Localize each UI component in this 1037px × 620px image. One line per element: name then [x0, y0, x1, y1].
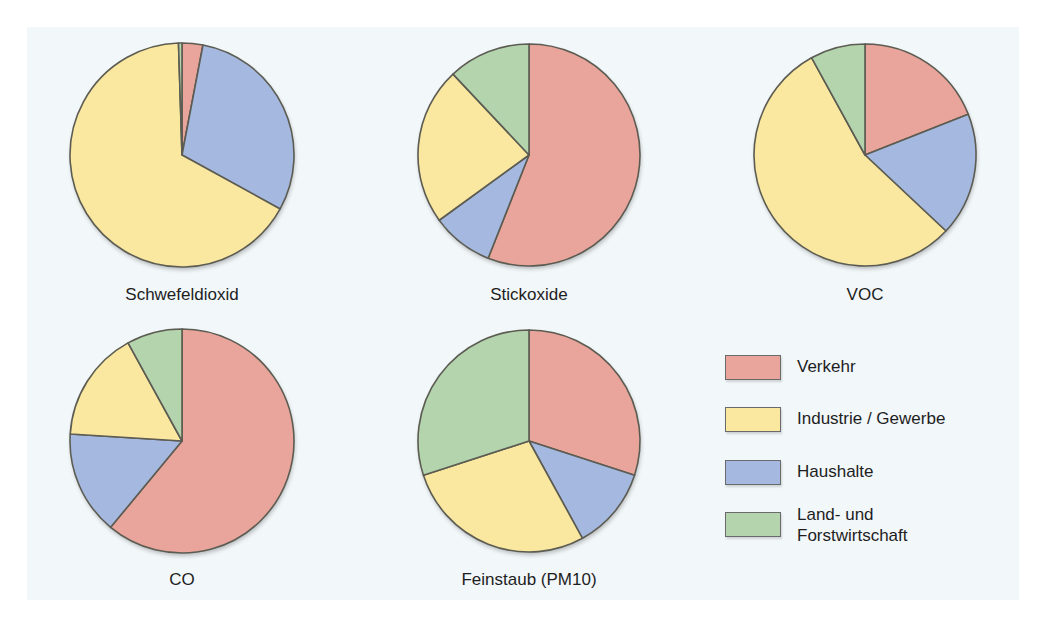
legend-swatch-land-forstwirtschaft	[725, 512, 781, 537]
pie-title-co: CO	[52, 570, 312, 590]
legend-label-industrie: Industrie / Gewerbe	[797, 408, 1037, 429]
pie-schwefeldioxid	[70, 43, 294, 267]
legend-swatch-industrie	[725, 407, 781, 432]
legend-item-verkehr: Verkehr	[725, 355, 1025, 395]
pie-co	[70, 329, 294, 553]
pie-stickoxide	[418, 44, 640, 266]
legend-label-land-forstwirtschaft: Land- und Forstwirtschaft	[797, 504, 1037, 546]
pie-voc	[754, 44, 976, 266]
legend-swatch-haushalte	[725, 460, 781, 485]
legend-swatch-verkehr	[725, 355, 781, 380]
pie-title-stickoxide: Stickoxide	[399, 285, 659, 305]
legend-label-verkehr: Verkehr	[797, 356, 1037, 377]
pie-feinstaub	[418, 330, 640, 552]
legend-item-haushalte: Haushalte	[725, 460, 1025, 500]
legend-label-haushalte: Haushalte	[797, 461, 1037, 482]
pie-title-feinstaub: Feinstaub (PM10)	[399, 570, 659, 590]
legend-item-industrie: Industrie / Gewerbe	[725, 407, 1025, 447]
pie-title-voc: VOC	[735, 285, 995, 305]
pie-title-schwefeldioxid: Schwefeldioxid	[52, 285, 312, 305]
legend-item-land-forstwirtschaft: Land- und Forstwirtschaft	[725, 512, 1025, 552]
